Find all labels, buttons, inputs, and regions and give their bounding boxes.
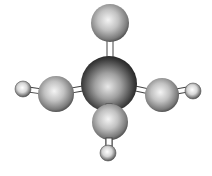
left-atom [38,76,74,112]
right-small-atom [185,83,201,99]
bottom-atom [92,104,128,140]
right-atom [145,78,179,112]
bottom-small-atom [100,145,116,161]
molecule-diagram [0,0,212,176]
left-small-atom [15,81,31,97]
top-atom [91,4,129,42]
